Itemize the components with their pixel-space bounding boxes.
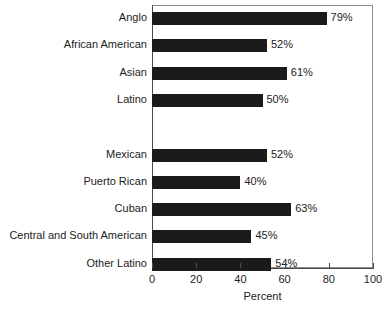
x-axis-tick	[329, 263, 330, 268]
bar-value-label: 54%	[275, 256, 297, 271]
bar-category-label: African American	[0, 37, 147, 52]
x-axis-tick	[152, 263, 153, 268]
x-axis-tick-label: 60	[278, 272, 290, 286]
bar-category-label: Latino	[0, 92, 147, 107]
bar-category-label: Asian	[0, 65, 147, 80]
bar-value-label: 61%	[291, 65, 313, 80]
bar	[152, 230, 251, 243]
x-axis-tick-label: 0	[149, 272, 155, 286]
bar-value-label: 63%	[295, 201, 317, 216]
bar-value-label: 40%	[244, 174, 266, 189]
bar-row: Latino50%	[0, 94, 388, 107]
x-axis-tick	[373, 263, 374, 268]
bar-category-label: Puerto Rican	[0, 174, 147, 189]
bar-rows: Anglo79%African American52%Asian61%Latin…	[0, 0, 388, 309]
x-axis-tick	[196, 263, 197, 268]
bar-row: Other Latino54%	[0, 258, 388, 271]
x-axis-tick-label: 20	[190, 272, 202, 286]
bar	[152, 94, 263, 107]
bar-row: Central and South American45%	[0, 230, 388, 243]
bar-row: African American52%	[0, 39, 388, 52]
bar	[152, 258, 271, 271]
bar-value-label: 50%	[267, 92, 289, 107]
bar	[152, 39, 267, 52]
bar	[152, 203, 291, 216]
x-axis-tick-label: 100	[364, 272, 382, 286]
x-axis-title: Percent	[152, 289, 373, 303]
bar-value-label: 52%	[271, 147, 293, 162]
x-axis-tick	[285, 263, 286, 268]
x-axis-tick-label: 40	[234, 272, 246, 286]
bar-category-label: Central and South American	[0, 228, 147, 243]
bar-row: Puerto Rican40%	[0, 176, 388, 189]
bar-row: Cuban63%	[0, 203, 388, 216]
bar-category-label: Cuban	[0, 201, 147, 216]
bar-chart: Anglo79%African American52%Asian61%Latin…	[0, 0, 388, 309]
bar	[152, 67, 287, 80]
bar-category-label: Mexican	[0, 147, 147, 162]
bar-value-label: 52%	[271, 37, 293, 52]
bar-row: Asian61%	[0, 67, 388, 80]
x-axis-tick-label: 80	[323, 272, 335, 286]
bar-value-label: 79%	[331, 10, 353, 25]
bar	[152, 12, 327, 25]
bar	[152, 149, 267, 162]
bar-category-label: Anglo	[0, 10, 147, 25]
x-axis-tick	[240, 263, 241, 268]
bar-row: Mexican52%	[0, 149, 388, 162]
bar	[152, 176, 240, 189]
bar-category-label: Other Latino	[0, 256, 147, 271]
bar-value-label: 45%	[255, 228, 277, 243]
bar-row: Anglo79%	[0, 12, 388, 25]
